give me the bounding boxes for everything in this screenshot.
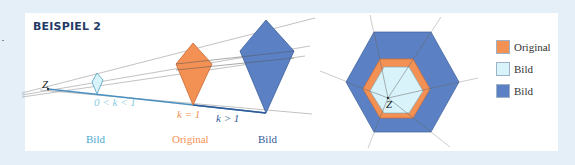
legend-item-bild-small: Bild	[496, 58, 551, 80]
legend-item-original: Original	[496, 36, 551, 58]
legend-label: Bild	[514, 85, 533, 97]
caption-original: Original	[172, 133, 209, 145]
swatch-original	[496, 40, 510, 54]
swatch-bild-large	[496, 84, 510, 98]
legend-label: Original	[514, 41, 551, 53]
edge-mark	[2, 40, 4, 41]
legend-label: Bild	[514, 63, 533, 75]
hex-center-label-z: Z	[386, 98, 392, 110]
small-kite-image	[92, 73, 103, 94]
swatch-bild-small	[496, 62, 510, 76]
ratio-label-equal: k = 1	[177, 108, 200, 120]
center-label-z: Z	[42, 78, 48, 90]
ratio-label-large: k > 1	[216, 112, 239, 124]
large-kite-image	[240, 20, 294, 113]
legend-item-bild-large: Bild	[496, 80, 551, 102]
caption-large-image: Bild	[258, 133, 277, 145]
ratio-label-small: 0 < k < 1	[94, 96, 136, 108]
caption-small-image: Bild	[86, 133, 105, 145]
legend: Original Bild Bild	[496, 36, 551, 102]
